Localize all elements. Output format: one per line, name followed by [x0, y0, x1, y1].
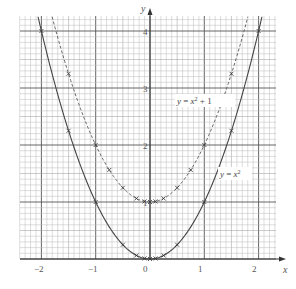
y-axis-label: y — [140, 3, 146, 14]
curve-label-x-squared: y = x2 — [219, 169, 241, 179]
data-point-x-marker-icon — [189, 168, 193, 172]
x-tick-label: −2 — [34, 264, 44, 274]
x-tick-label: 2 — [252, 264, 257, 274]
x-tick-label: 0 — [143, 264, 148, 274]
y-tick-label: 3 — [143, 84, 148, 94]
y-tick-label: 4 — [143, 27, 148, 37]
x-axis-label: x — [282, 264, 288, 275]
data-point-x-marker-icon — [162, 196, 166, 200]
data-point-x-marker-icon — [107, 168, 111, 172]
x-tick-label: 1 — [198, 264, 203, 274]
x-tick-label: −1 — [88, 264, 98, 274]
y-axis-arrow-icon — [148, 8, 153, 15]
parabola-chart: x y −2 −1 0 1 2 1 2 3 4 y = x2 + 1 y = x… — [0, 0, 296, 289]
x-axis-arrow-icon — [279, 257, 286, 262]
data-point-x-marker-icon — [134, 196, 138, 200]
y-tick-label: 1 — [143, 198, 148, 208]
y-tick-label: 2 — [143, 141, 148, 151]
grid — [20, 16, 276, 259]
data-point-x-marker-icon — [162, 253, 166, 257]
data-point-x-marker-icon — [134, 253, 138, 257]
curve-label-x-squared-plus-one: y = x2 + 1 — [176, 96, 212, 106]
